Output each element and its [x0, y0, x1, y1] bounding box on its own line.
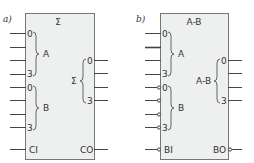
inversion-bubble-icon — [157, 86, 160, 89]
inversion-bubble-icon — [157, 113, 160, 116]
subtractor-a-last-bit: 3 — [162, 69, 168, 79]
inversion-bubble-icon — [228, 148, 231, 151]
subtractor-a-group-label: A — [178, 49, 185, 59]
diagram-b-label: b) — [136, 14, 146, 24]
adder-b-first-bit: 0 — [27, 83, 33, 93]
adder-out-group-label: Σ — [71, 76, 77, 86]
subtractor-out-first-bit: 0 — [221, 56, 227, 66]
subtractor-output-lines — [228, 61, 242, 152]
subtractor-a-input-lines — [145, 34, 161, 75]
carry-in-label: CI — [29, 145, 38, 155]
diagram-b: b) A-B 0 3 A 0 — [136, 14, 242, 160]
adder-input-lines — [10, 34, 26, 150]
subtractor-b-last-bit: 3 — [162, 123, 168, 133]
carry-out-label: CO — [80, 145, 93, 155]
adder-b-group-label: B — [43, 103, 49, 113]
subtractor-out-group-label: A-B — [196, 76, 211, 86]
adder-title: Σ — [55, 17, 61, 27]
subtractor-b-first-bit: 0 — [162, 83, 168, 93]
adder-out-last-bit: 3 — [87, 96, 93, 106]
inversion-bubble-icon — [157, 99, 160, 102]
adder-b-last-bit: 3 — [27, 123, 33, 133]
subtractor-b-inverted-inputs — [145, 86, 161, 151]
inversion-bubble-icon — [157, 126, 160, 129]
diagram-a-label: a) — [3, 14, 12, 24]
subtractor-b-group-label: B — [178, 103, 184, 113]
adder-a-last-bit: 3 — [27, 69, 33, 79]
adder-a-group-label: A — [43, 49, 50, 59]
borrow-out-label: BO — [213, 145, 226, 155]
subtractor-title: A-B — [186, 17, 201, 27]
diagram-canvas: a) Σ 0 3 A 0 3 B — [0, 0, 254, 163]
adder-a-first-bit: 0 — [27, 29, 33, 39]
diagram-a: a) Σ 0 3 A 0 3 B — [3, 14, 108, 160]
subtractor-a-first-bit: 0 — [162, 29, 168, 39]
adder-out-first-bit: 0 — [87, 56, 93, 66]
adder-output-lines — [94, 61, 108, 150]
borrow-in-label: BI — [164, 145, 173, 155]
subtractor-out-last-bit: 3 — [221, 96, 227, 106]
inversion-bubble-icon — [157, 148, 160, 151]
